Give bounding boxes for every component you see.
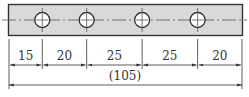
segment-dim-label: 25 [162, 49, 177, 63]
overall-dim-label: (105) [109, 69, 141, 83]
overall-dimension: (105) [9, 69, 242, 85]
segment-dimensions: 1520252520 [10, 49, 241, 65]
segment-dim-label: 15 [18, 49, 33, 63]
segment-dim-label: 25 [107, 49, 122, 63]
plate-drawing: 1520252520 (105) [0, 0, 249, 97]
segment-dim-label: 20 [212, 49, 227, 63]
segment-dim-label: 20 [57, 49, 72, 63]
